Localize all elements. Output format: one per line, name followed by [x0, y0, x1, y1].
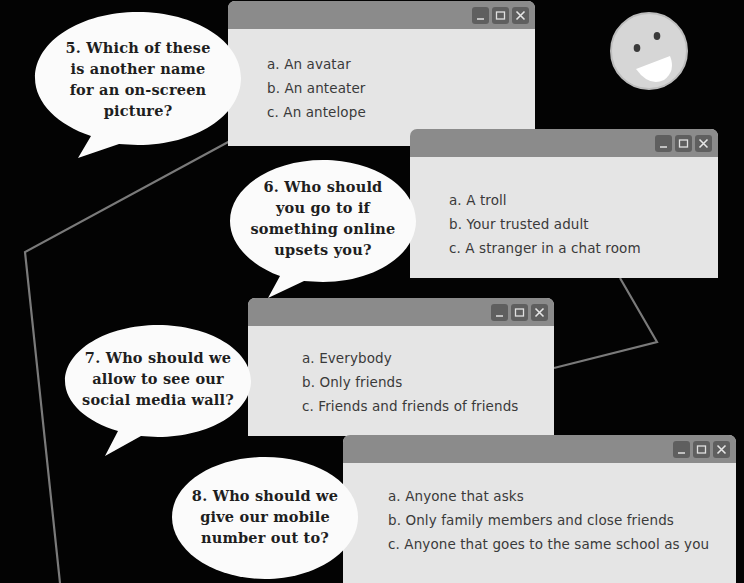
option-c[interactable]: c. Friends and friends of friends [302, 394, 518, 418]
close-button[interactable] [512, 7, 529, 24]
maximize-button[interactable] [693, 441, 710, 458]
quiz-window-7: a. Everybody b. Only friends c. Friends … [248, 298, 554, 436]
close-icon [698, 138, 709, 149]
minimize-icon [676, 444, 687, 455]
quiz-window-8: a. Anyone that asks b. Only family membe… [343, 435, 736, 583]
option-a[interactable]: a. Anyone that asks [388, 484, 709, 508]
question-text: 5. Which of these is another name for an… [33, 37, 243, 121]
option-b[interactable]: b. Only family members and close friends [388, 508, 709, 532]
minimize-icon [475, 10, 486, 21]
answer-options: a. A troll b. Your trusted adult c. A st… [449, 188, 641, 260]
question-text: 8. Who should we give our mobile number … [170, 485, 360, 548]
minimize-icon [494, 307, 505, 318]
speech-bubble-8: 8. Who should we give our mobile number … [170, 455, 360, 583]
maximize-button[interactable] [492, 7, 509, 24]
answer-options: a. Anyone that asks b. Only family membe… [388, 484, 709, 556]
speech-bubble-7: 7. Who should we allow to see our social… [63, 323, 253, 458]
option-c[interactable]: c. An antelope [267, 100, 366, 124]
close-icon [716, 444, 727, 455]
close-button[interactable] [531, 304, 548, 321]
option-b[interactable]: b. Only friends [302, 370, 518, 394]
option-a[interactable]: a. An avatar [267, 52, 366, 76]
minimize-button[interactable] [472, 7, 489, 24]
speech-bubble-5: 5. Which of these is another name for an… [33, 10, 243, 160]
question-text: 7. Who should we allow to see our social… [63, 347, 253, 410]
window-titlebar[interactable] [410, 129, 718, 157]
option-b[interactable]: b. Your trusted adult [449, 212, 641, 236]
question-text: 6. Who should you go to if something onl… [228, 176, 418, 260]
minimize-button[interactable] [491, 304, 508, 321]
close-icon [515, 10, 526, 21]
minimize-button[interactable] [655, 135, 672, 152]
close-icon [534, 307, 545, 318]
quiz-window-6: a. A troll b. Your trusted adult c. A st… [410, 129, 718, 278]
maximize-icon [495, 10, 506, 21]
minimize-icon [658, 138, 669, 149]
maximize-icon [514, 307, 525, 318]
answer-options: a. An avatar b. An anteater c. An antelo… [267, 52, 366, 124]
maximize-button[interactable] [675, 135, 692, 152]
window-titlebar[interactable] [228, 1, 535, 29]
option-c[interactable]: c. A stranger in a chat room [449, 236, 641, 260]
maximize-button[interactable] [511, 304, 528, 321]
option-a[interactable]: a. Everybody [302, 346, 518, 370]
maximize-icon [678, 138, 689, 149]
quiz-window-5: a. An avatar b. An anteater c. An antelo… [228, 1, 535, 146]
option-a[interactable]: a. A troll [449, 188, 641, 212]
window-titlebar[interactable] [343, 435, 736, 463]
minimize-button[interactable] [673, 441, 690, 458]
maximize-icon [696, 444, 707, 455]
close-button[interactable] [695, 135, 712, 152]
close-button[interactable] [713, 441, 730, 458]
answer-options: a. Everybody b. Only friends c. Friends … [302, 346, 518, 418]
window-titlebar[interactable] [248, 298, 554, 326]
speech-bubble-6: 6. Who should you go to if something onl… [228, 158, 418, 300]
option-b[interactable]: b. An anteater [267, 76, 366, 100]
option-c[interactable]: c. Anyone that goes to the same school a… [388, 532, 709, 556]
smiley-face-icon [609, 11, 689, 91]
